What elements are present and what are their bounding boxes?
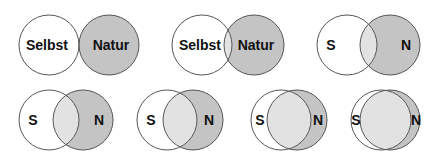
venn-panel-4: SN — [19, 90, 113, 150]
self-label: S — [255, 112, 264, 128]
venn-panel-6: SN — [251, 90, 327, 150]
venn-panel-2: SelbstNatur — [172, 15, 284, 75]
self-label: S — [146, 112, 155, 128]
venn-panel-3: SN — [317, 15, 420, 75]
nature-label: N — [204, 112, 214, 128]
nature-label: Natur — [238, 37, 275, 53]
self-label: Selbst — [179, 37, 221, 53]
venn-panel-7: SN — [351, 90, 421, 150]
nature-label: N — [94, 112, 104, 128]
venn-diagram-figure: SelbstNaturSelbstNaturSNSNSNSNSN — [0, 0, 439, 160]
nature-label: N — [313, 112, 323, 128]
self-label: S — [351, 112, 360, 128]
venn-panel-5: SN — [137, 90, 223, 150]
nature-label: N — [401, 37, 411, 53]
nature-label: N — [411, 112, 421, 128]
nature-label: Natur — [93, 37, 130, 53]
self-label: S — [28, 112, 37, 128]
self-label: Selbst — [26, 37, 68, 53]
venn-panel-1: SelbstNatur — [19, 15, 139, 75]
self-label: S — [326, 37, 335, 53]
